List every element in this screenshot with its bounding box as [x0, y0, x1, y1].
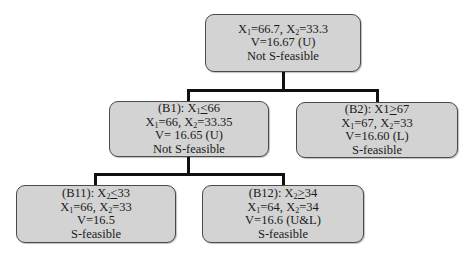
b1-constraint: (B1): X1<66 [158, 102, 220, 116]
b12-constraint: (B12): X2>34 [249, 187, 317, 201]
edge-root-bar [187, 89, 379, 92]
node-b2: (B2): X1>67 X1=67, X2=33 V=16.60 (L) S-f… [296, 102, 458, 158]
root-solution-line: X1=66.7, X2=33.3 [238, 23, 328, 37]
b2-feasibility: S-feasible [352, 144, 402, 158]
root-feasibility: Not S-feasible [247, 50, 319, 64]
b2-value: V=16.60 (L) [345, 130, 408, 144]
b11-solution-line: X1=66, X2=33 [60, 201, 131, 215]
edge-b1-bar [94, 173, 285, 176]
node-b1: (B1): X1<66 X1=66, X2=33.35 V= 16.65 (U)… [109, 101, 269, 157]
b1-solution-line: X1=66, X2=33.35 [145, 116, 232, 130]
b11-feasibility: S-feasible [71, 228, 121, 242]
b2-constraint: (B2): X1>67 [345, 103, 409, 117]
b1-feasibility: Not S-feasible [153, 143, 225, 157]
b1-value: V= 16.65 (U) [155, 129, 223, 143]
b12-value: V=16.6 (U&L) [245, 214, 321, 228]
node-b11: (B11): X2<33 X1=66, X2=33 V=16.5 S-feasi… [16, 185, 176, 243]
edge-root-to-b2 [376, 89, 379, 103]
b12-feasibility: S-feasible [258, 228, 308, 242]
root-value: V=16.67 (U) [251, 36, 316, 50]
b12-solution-line: X1=64, X2=34 [247, 201, 318, 215]
node-b12: (B12): X2>34 X1=64, X2=34 V=16.6 (U&L) S… [202, 185, 364, 243]
b11-constraint: (B11): X2<33 [62, 187, 130, 201]
b2-solution-line: X1=67, X2=33 [341, 117, 412, 131]
b11-value: V=16.5 [77, 214, 115, 228]
edge-root-trunk [282, 71, 285, 91]
node-root: X1=66.7, X2=33.3 V=16.67 (U) Not S-feasi… [205, 14, 361, 72]
